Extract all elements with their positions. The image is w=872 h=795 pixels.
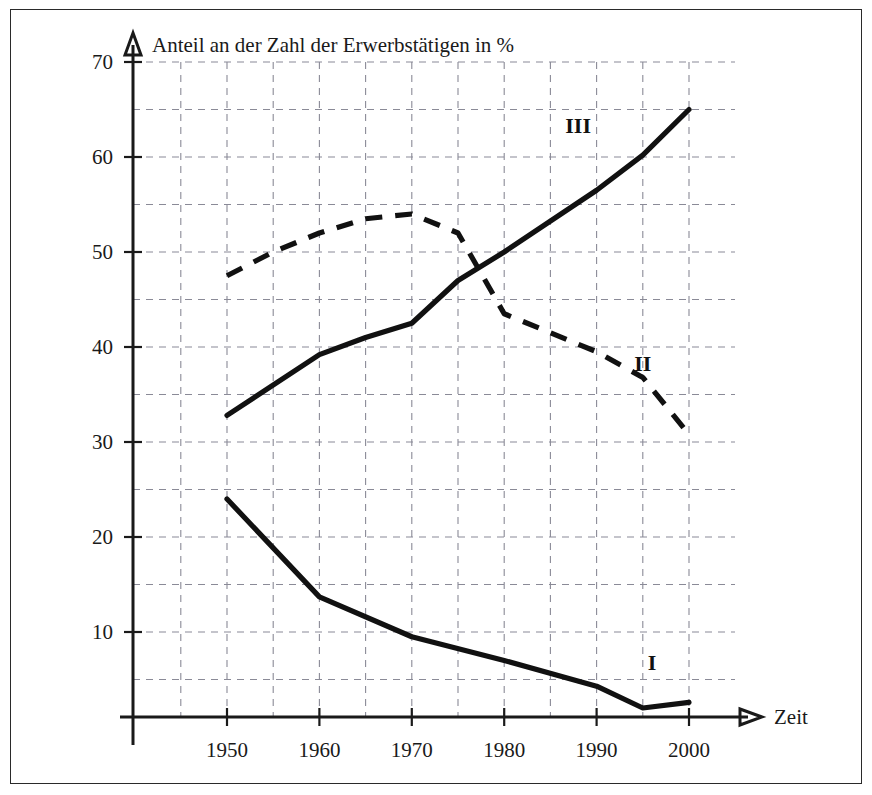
x-tick-label: 1970 <box>391 738 433 762</box>
chart-figure: 10203040506070195019601970198019902000 A… <box>0 0 872 795</box>
x-tick-label: 2000 <box>668 738 710 762</box>
chart-title: Anteil an der Zahl der Erwerbstätigen in… <box>152 33 514 57</box>
x-tick-label: 1980 <box>483 738 525 762</box>
y-tick-label: 30 <box>92 430 113 454</box>
line-chart: 10203040506070195019601970198019902000 A… <box>0 0 872 795</box>
x-tick-label: 1950 <box>206 738 248 762</box>
x-tick-label: 1960 <box>298 738 340 762</box>
series-label-III: III <box>565 113 591 138</box>
data-series <box>227 110 689 709</box>
axis-lines <box>120 33 762 745</box>
y-tick-label: 50 <box>92 240 113 264</box>
gridlines <box>133 62 735 717</box>
x-axis-label: Zeit <box>774 705 808 729</box>
y-tick-label: 20 <box>92 525 113 549</box>
y-tick-label: 40 <box>92 335 113 359</box>
series-label-I: I <box>648 650 657 675</box>
y-tick-label: 60 <box>92 145 113 169</box>
y-tick-label: 70 <box>92 50 113 74</box>
x-tick-label: 1990 <box>576 738 618 762</box>
series-label-II: II <box>634 351 651 376</box>
y-tick-label: 10 <box>92 620 113 644</box>
